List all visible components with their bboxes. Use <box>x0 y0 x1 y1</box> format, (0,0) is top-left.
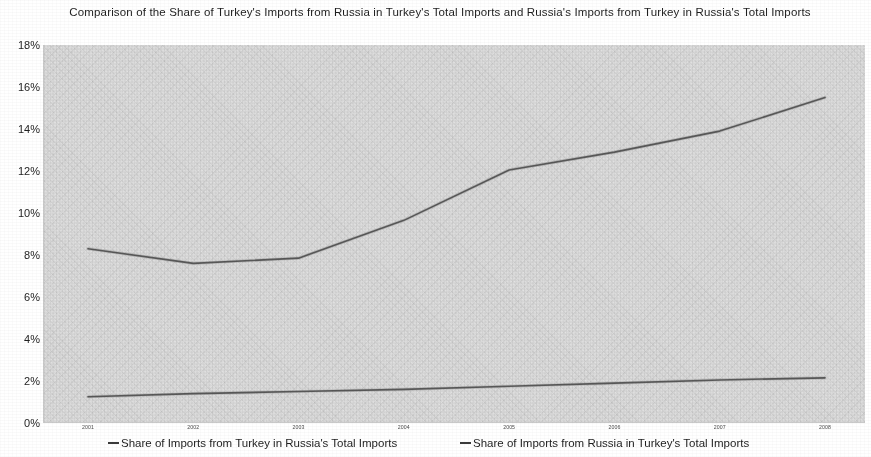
y-axis: 18%16%14%12%10%8%6%4%2%0% <box>0 0 40 457</box>
x-axis-tick-label: 2002 <box>173 424 213 430</box>
x-axis-tick-label: 2008 <box>805 424 845 430</box>
plot-background-texture <box>44 45 865 422</box>
y-axis-tick-label: 8% <box>4 249 40 261</box>
chart-legend: Share of Imports from Turkey in Russia's… <box>0 437 871 457</box>
y-axis-tick-label: 6% <box>4 291 40 303</box>
legend-line-icon <box>108 442 119 444</box>
y-axis-tick-label: 14% <box>4 123 40 135</box>
legend-label: Share of Imports from Russia in Turkey's… <box>473 437 749 449</box>
y-axis-tick-label: 16% <box>4 81 40 93</box>
y-axis-tick-label: 2% <box>4 375 40 387</box>
plot-area <box>43 45 865 423</box>
y-axis-tick-label: 10% <box>4 207 40 219</box>
legend-line-icon <box>460 442 471 444</box>
x-axis-tick-label: 2004 <box>384 424 424 430</box>
y-axis-tick-label: 4% <box>4 333 40 345</box>
y-axis-tick-label: 18% <box>4 39 40 51</box>
chart-title: Comparison of the Share of Turkey's Impo… <box>60 5 820 20</box>
x-axis: 20012002200320042005200620072008 <box>0 424 871 438</box>
y-axis-tick-label: 12% <box>4 165 40 177</box>
x-axis-tick-label: 2003 <box>279 424 319 430</box>
x-axis-tick-label: 2006 <box>594 424 634 430</box>
chart-figure: Comparison of the Share of Turkey's Impo… <box>0 0 871 457</box>
legend-item-russia-in-turkey: Share of Imports from Russia in Turkey's… <box>460 437 749 449</box>
x-axis-tick-label: 2007 <box>700 424 740 430</box>
x-axis-tick-label: 2005 <box>489 424 529 430</box>
legend-label: Share of Imports from Turkey in Russia's… <box>121 437 397 449</box>
x-axis-tick-label: 2001 <box>68 424 108 430</box>
legend-item-turkey-in-russia: Share of Imports from Turkey in Russia's… <box>108 437 397 449</box>
